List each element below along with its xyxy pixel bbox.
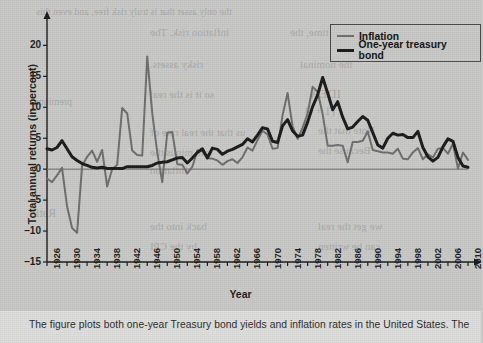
chart-legend: InflationOne-year treasury bond (330, 24, 481, 62)
legend-swatch-icon (337, 49, 354, 52)
figure-chart: Total annual returns (in percent) Year –… (0, 0, 481, 311)
figure-caption: The figure plots both one-year Treasury … (0, 311, 481, 343)
legend-item-treasury-bond: One-year treasury bond (337, 43, 472, 57)
legend-swatch-icon (337, 35, 354, 37)
series-line-inflation (47, 57, 468, 233)
legend-label: One-year treasury bond (359, 39, 472, 61)
y-axis-arrow-icon (44, 11, 51, 19)
caption-text: The figure plots both one-year Treasury … (29, 319, 469, 330)
x-axis-arrow-icon (474, 259, 481, 266)
series-line-one-year-treasury-bond (47, 78, 468, 169)
